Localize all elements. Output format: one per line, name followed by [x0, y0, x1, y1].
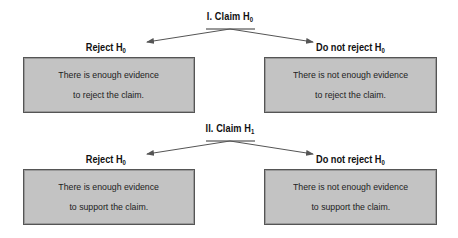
do-not-reject-label-2: Do not reject H0 [316, 154, 385, 166]
claim-title-2: II. Claim H1 [191, 123, 268, 135]
box-text-line: to support the claim. [311, 197, 390, 217]
claim-title-1: I. Claim H0 [193, 11, 267, 23]
arrow-right-icon [230, 141, 313, 154]
do-not-reject-label-1: Do not reject H0 [316, 42, 385, 54]
arrow-left-icon [147, 29, 230, 42]
arrow-left-icon [147, 141, 230, 154]
box-text-line: to reject the claim. [315, 85, 386, 105]
box-text-line: There is enough evidence [59, 177, 160, 197]
arrow-right-icon [230, 29, 313, 42]
decision-box-do-not-reject-1: There is not enough evidence to reject t… [264, 57, 437, 113]
decision-box-reject-1: There is enough evidence to reject the c… [23, 57, 195, 113]
reject-label-1: Reject H0 [86, 42, 126, 54]
reject-label-2: Reject H0 [86, 154, 126, 166]
decision-box-reject-2: There is enough evidence to support the … [23, 169, 195, 225]
box-text-line: There is not enough evidence [293, 177, 408, 197]
box-text-line: There is enough evidence [59, 65, 160, 85]
box-text-line: There is not enough evidence [293, 65, 408, 85]
box-text-line: to support the claim. [70, 197, 149, 217]
box-text-line: to reject the claim. [74, 85, 145, 105]
decision-box-do-not-reject-2: There is not enough evidence to support … [264, 169, 437, 225]
